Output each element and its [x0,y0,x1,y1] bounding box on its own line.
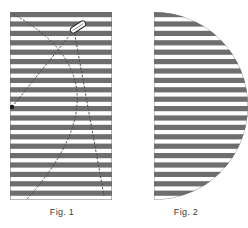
fig2-stripe-fill [154,12,248,200]
fig1-graphic [0,0,124,205]
figure-panel-fig2: Fig. 2 [124,0,248,228]
figure-caption-fig1: Fig. 1 [0,207,124,217]
figure-panel-fig1: Fig. 1 [0,0,124,228]
figure-board: Fig. 1 Fig. 2 [0,0,248,228]
fig1-stripe-fill [10,12,112,200]
figure-caption-fig2: Fig. 2 [124,207,248,217]
fig2-graphic [124,0,248,205]
